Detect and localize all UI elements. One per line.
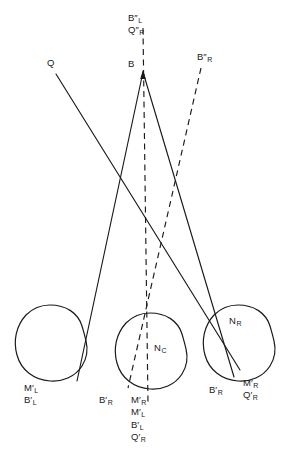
left-eye-outline bbox=[15, 305, 87, 381]
label-n-c: NC bbox=[154, 343, 167, 354]
center-eye-outline bbox=[115, 313, 187, 389]
label-b-double-prime-l: B″L bbox=[128, 13, 145, 24]
label-b-prime-l-center: B′L bbox=[131, 420, 146, 431]
left-eye-label-stack: M′L B′L bbox=[24, 383, 38, 406]
label-m-prime-r-right: M′R bbox=[243, 378, 258, 389]
label-m-prime-r-center: M′R bbox=[131, 395, 146, 406]
center-eye-label-stack: M′R M′L B′L Q′R bbox=[131, 395, 146, 443]
label-m-prime-l-left: M′L bbox=[24, 383, 38, 394]
apex-marker-b bbox=[140, 70, 146, 79]
label-b-double-prime-r: B″R bbox=[197, 52, 212, 63]
label-n-r: NR bbox=[229, 316, 242, 327]
label-q-prime-r-right: Q′R bbox=[243, 390, 258, 401]
label-b-prime-r-center: B′R bbox=[99, 395, 113, 406]
ray-diagram-figure: B″L Q″R B Q B″R NC NR M′L B′L B′R M′R bbox=[0, 0, 294, 454]
label-b-apex: B bbox=[128, 59, 135, 69]
label-q-source: Q bbox=[47, 58, 55, 68]
solid-ray-b-to-left-eye bbox=[77, 72, 143, 381]
top-label-stack: B″L Q″R bbox=[128, 13, 145, 36]
solid-ray-q-to-right-eye bbox=[56, 74, 240, 370]
label-q-prime-r-center: Q′R bbox=[131, 432, 146, 443]
right-eye-label-stack: M′R Q′R bbox=[243, 378, 258, 401]
solid-ray-b-to-right-eye bbox=[143, 72, 234, 377]
label-b-prime-l-left: B′L bbox=[24, 395, 38, 406]
label-m-prime-l-center: M′L bbox=[131, 407, 146, 418]
label-b-prime-r-right: B′R bbox=[209, 385, 223, 396]
label-q-double-prime-r: Q″R bbox=[128, 25, 145, 36]
